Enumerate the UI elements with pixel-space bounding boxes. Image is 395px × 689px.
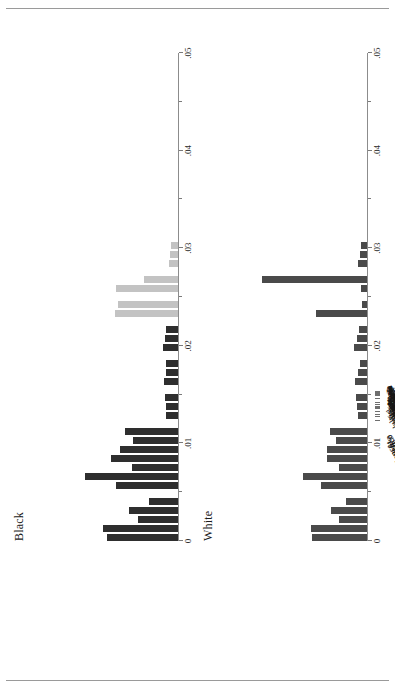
- panel-white: White 0.01.02.03.04.05 Current Residence…: [199, 19, 382, 669]
- bar: [138, 516, 178, 523]
- bar: [321, 482, 367, 489]
- axis-tick-label: 0: [183, 539, 193, 544]
- bar-group: [26, 242, 178, 267]
- bar-group: [26, 276, 178, 292]
- bar-group: [26, 428, 178, 489]
- bar-group: [215, 360, 367, 385]
- bar: [316, 310, 367, 317]
- bar: [111, 455, 178, 462]
- figure-stage: Black 0.01.02.03.04.05 White 0.01.02.03.…: [0, 0, 395, 689]
- bar: [327, 455, 367, 462]
- bar: [166, 360, 178, 367]
- bar-group: [26, 326, 178, 351]
- bar: [346, 498, 367, 505]
- category-tick: [375, 411, 380, 412]
- panel-black: Black 0.01.02.03.04.05: [10, 19, 193, 669]
- bar: [166, 412, 178, 419]
- axis-tick-minor: [179, 198, 182, 199]
- bar: [107, 534, 178, 541]
- bar-group: [215, 428, 367, 489]
- axis-tick-label: .01: [183, 438, 193, 449]
- bar: [362, 301, 367, 308]
- bar: [356, 394, 367, 401]
- category-tick: [375, 420, 380, 421]
- axis-tick-minor: [179, 296, 182, 297]
- axis-tick-label: .03: [183, 243, 193, 254]
- axis-tick-label: .04: [183, 145, 193, 156]
- bar: [357, 403, 367, 410]
- bars-black: [26, 53, 179, 541]
- bar: [262, 276, 367, 283]
- bar: [118, 301, 178, 308]
- bar: [144, 276, 178, 283]
- bar: [166, 326, 178, 333]
- category-ticks: [375, 53, 382, 541]
- axis-tick-minor: [368, 101, 371, 102]
- axis-tick-minor: [179, 394, 182, 395]
- category-tick: [375, 391, 380, 392]
- bar: [129, 507, 178, 514]
- bar-group: [215, 301, 367, 317]
- axis-tick-label: .05: [183, 47, 193, 58]
- bar-group: [26, 498, 178, 541]
- bar: [357, 335, 367, 342]
- bar: [360, 360, 367, 367]
- bar-group: [215, 276, 367, 292]
- bar-group: [215, 498, 367, 541]
- axis-tick-minor: [368, 296, 371, 297]
- category-tick: [375, 395, 380, 396]
- bar: [165, 394, 178, 401]
- category-tick: [375, 398, 380, 399]
- bar: [103, 525, 178, 532]
- category-tick: [375, 440, 380, 441]
- bar: [125, 428, 179, 435]
- axis-tick-minor: [179, 491, 182, 492]
- plot-area-black: [26, 53, 179, 541]
- category-tick: [375, 408, 380, 409]
- bar: [115, 310, 178, 317]
- axis-tick-minor: [368, 198, 371, 199]
- category-tick: [375, 392, 380, 393]
- bar: [164, 378, 178, 385]
- panel-container: Black 0.01.02.03.04.05 White 0.01.02.03.…: [10, 19, 382, 669]
- panel-title-black: Black: [12, 512, 27, 541]
- bar: [312, 534, 367, 541]
- bar-group: [215, 326, 367, 351]
- axis-tick-label: .02: [183, 340, 193, 351]
- bar-group: [26, 360, 178, 385]
- value-axis-black: 0.01.02.03.04.05: [179, 53, 193, 541]
- bar: [358, 369, 367, 376]
- bar: [327, 446, 367, 453]
- bar: [336, 437, 367, 444]
- axis-tick-minor: [368, 491, 371, 492]
- bar: [339, 516, 367, 523]
- bar: [169, 260, 178, 267]
- bar: [358, 412, 367, 419]
- bar: [339, 464, 367, 471]
- bar: [360, 251, 367, 258]
- bar: [361, 285, 367, 292]
- bar-group: [215, 394, 367, 419]
- bar: [120, 446, 178, 453]
- bar: [361, 242, 367, 249]
- bar: [85, 473, 178, 480]
- bar: [303, 473, 367, 480]
- bar: [166, 403, 178, 410]
- category-tick: [375, 414, 380, 415]
- bar: [330, 428, 367, 435]
- bar: [116, 285, 178, 292]
- bar: [355, 378, 367, 385]
- bar: [166, 369, 178, 376]
- bar: [171, 242, 178, 249]
- bar: [133, 437, 178, 444]
- panel-title-white: White: [201, 511, 216, 541]
- bar: [116, 482, 178, 489]
- bar: [311, 525, 367, 532]
- bar: [165, 335, 178, 342]
- category-tick: [375, 407, 380, 408]
- plot-area-white: [215, 53, 368, 541]
- bar: [163, 344, 179, 351]
- bars-white: [215, 53, 368, 541]
- bar-group: [215, 242, 367, 267]
- category-tick: [375, 416, 380, 417]
